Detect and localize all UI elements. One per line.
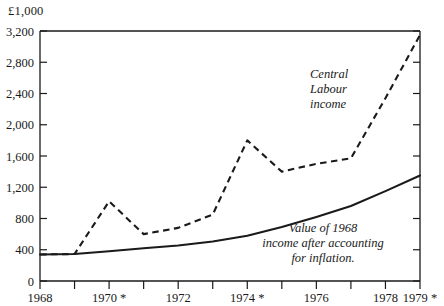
line-chart-svg: 04008001,2001,6002,0002,4002,8003,200 19… bbox=[0, 0, 444, 306]
annotation-central-labour-income: Labour bbox=[309, 82, 347, 96]
x-axis-tick-label: 1976 bbox=[304, 291, 329, 305]
x-axis-tick-label: 1972 bbox=[166, 291, 191, 305]
y-axis-tick-label: 400 bbox=[15, 243, 34, 257]
chart-container: £1,000 04008001,2001,6002,0002,4002,8003… bbox=[0, 0, 444, 306]
annotation-value-of-1968-income: for inflation. bbox=[291, 251, 354, 265]
y-axis-tick-label: 1,600 bbox=[6, 150, 34, 164]
y-axis-tick-label: 0 bbox=[28, 275, 34, 289]
series-group bbox=[40, 35, 420, 255]
x-axis-tick-label: 1979 * bbox=[403, 291, 437, 305]
x-axis-tick-group: 19681970 *19721974 *197619781979 * bbox=[28, 281, 438, 305]
y-axis-tick-label: 3,200 bbox=[6, 25, 34, 39]
y-axis-tick-label: 2,000 bbox=[6, 118, 34, 132]
annotation-value-of-1968-income: income after accounting bbox=[262, 236, 384, 250]
x-axis-tick-label: 1970 * bbox=[92, 291, 126, 305]
y-axis-tick-label: 800 bbox=[15, 212, 34, 226]
y-axis-tick-label: 2,400 bbox=[6, 87, 34, 101]
y-axis-tick-label: 2,800 bbox=[6, 56, 34, 70]
annotation-central-labour-income: Central bbox=[310, 67, 349, 81]
x-axis-tick-label: 1968 bbox=[28, 291, 53, 305]
annotation-value-of-1968-income: Value of 1968 bbox=[289, 221, 358, 235]
x-axis-tick-label: 1974 * bbox=[230, 291, 264, 305]
series-line-dashed bbox=[40, 35, 420, 255]
y-axis-tick-label: 1,200 bbox=[6, 181, 34, 195]
annotation-central-labour-income: income bbox=[310, 97, 347, 111]
annotation-group: CentralLabourincomeValue of 1968income a… bbox=[262, 67, 384, 265]
x-axis-tick-label: 1978 bbox=[373, 291, 398, 305]
